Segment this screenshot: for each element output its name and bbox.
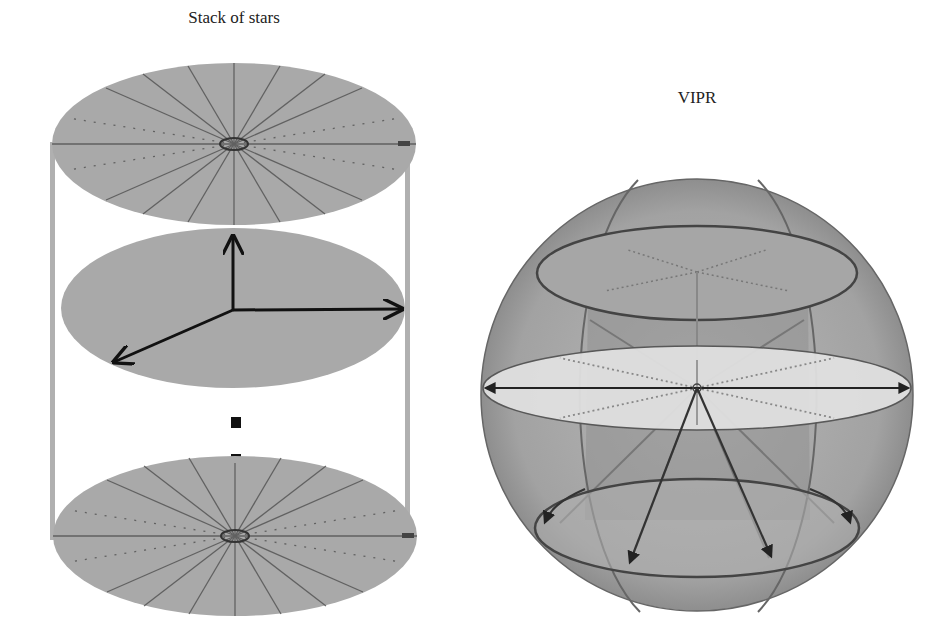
bottom-radial-disk xyxy=(53,456,417,616)
cylinder-right-bar xyxy=(405,142,410,540)
top-radial-disk xyxy=(52,63,416,225)
middle-disk xyxy=(61,228,405,388)
cylinder-left-bar xyxy=(50,142,55,540)
ellipsis-dot xyxy=(231,417,241,428)
lower-latitude-ellipse xyxy=(535,479,859,577)
figure-canvas xyxy=(0,0,952,637)
vipr-sphere-diagram xyxy=(481,179,913,612)
x-axis-arrow xyxy=(233,309,402,310)
stack-of-stars-diagram xyxy=(50,63,417,616)
